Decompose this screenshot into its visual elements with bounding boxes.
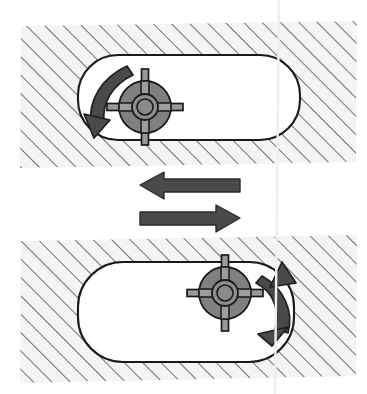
diagram-canvas	[0, 0, 367, 394]
bottom-panel	[20, 235, 357, 383]
bottom-rotor-hub-bore	[217, 285, 233, 301]
translation-arrow-left	[140, 172, 240, 199]
top-panel	[20, 21, 357, 168]
top-slot-cavity	[78, 55, 300, 140]
top-rotor-hub-bore	[137, 99, 153, 115]
translation-arrows	[140, 172, 240, 232]
translation-arrow-right	[140, 205, 240, 232]
diagram-svg	[0, 0, 367, 394]
